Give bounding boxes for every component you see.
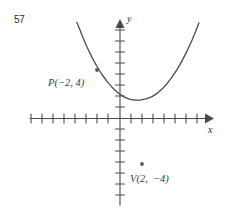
x-axis-label: x — [208, 124, 212, 135]
y-axis — [116, 24, 125, 205]
parabola-figure: 57 — [0, 0, 229, 218]
point-marker-v — [140, 162, 144, 166]
x-axis — [30, 114, 207, 123]
point-label-p: P(−2, 4) — [48, 77, 84, 88]
y-axis-arrowhead — [116, 19, 125, 28]
x-axis-arrowhead — [205, 114, 214, 124]
y-axis-label: y — [127, 13, 131, 24]
coordinate-plane — [0, 0, 229, 218]
point-label-v: V(2, −4) — [130, 173, 169, 184]
parabola-curve — [77, 22, 199, 100]
point-marker-p — [95, 68, 99, 72]
